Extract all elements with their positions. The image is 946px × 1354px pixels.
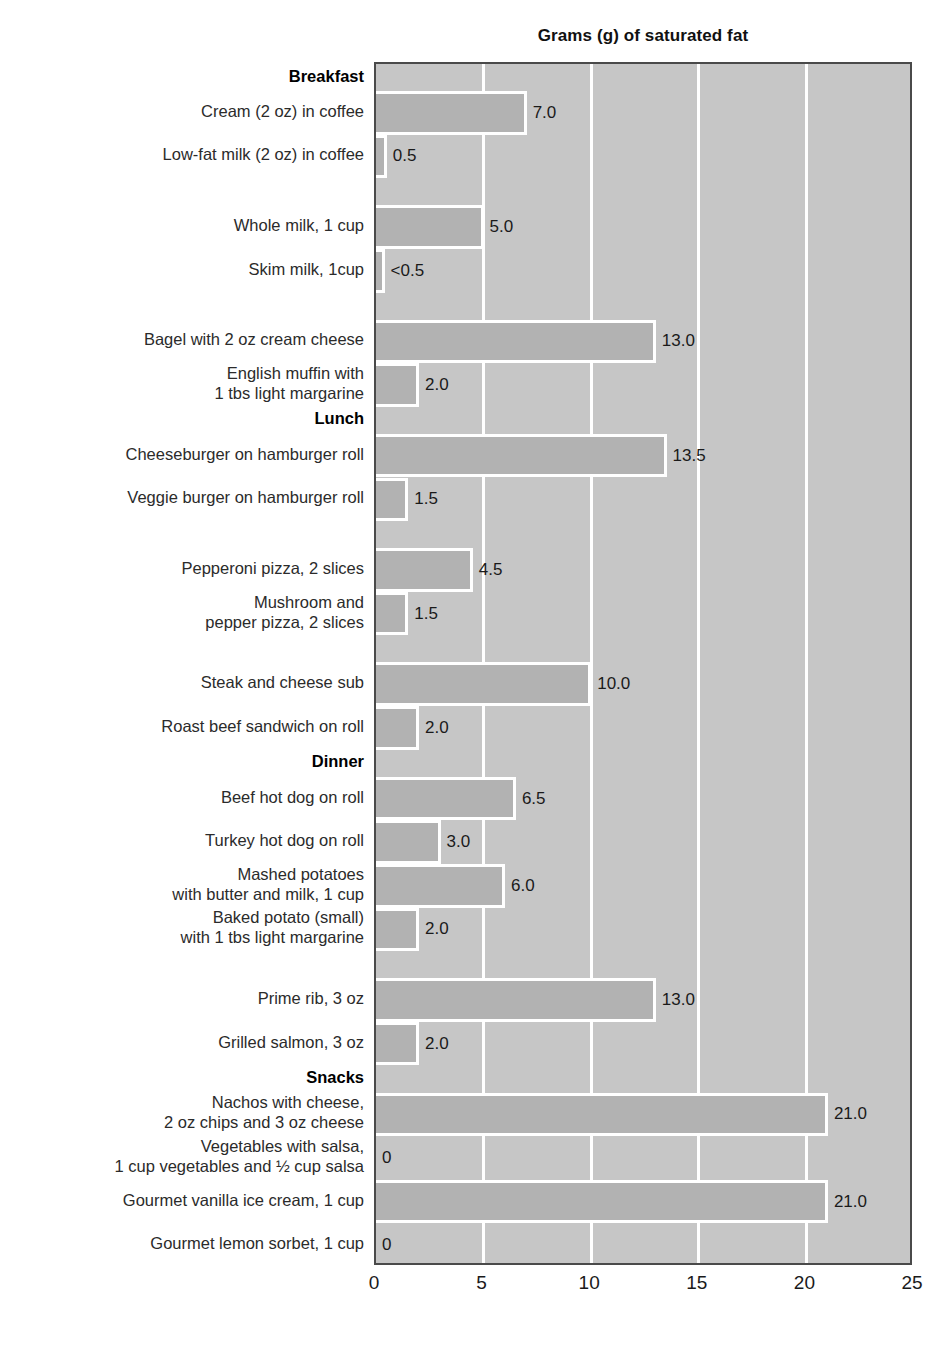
category-label: Gourmet lemon sorbet, 1 cup xyxy=(0,1233,364,1253)
bar-row[interactable]: 2.0 xyxy=(376,363,910,407)
bar[interactable] xyxy=(376,135,387,179)
bar-row[interactable]: 6.5 xyxy=(376,777,910,821)
bar-value-label: 2.0 xyxy=(419,718,449,738)
bar-row[interactable]: 2.0 xyxy=(376,1022,910,1066)
category-label: Nachos with cheese, 2 oz chips and 3 oz … xyxy=(0,1092,364,1132)
category-label: Beef hot dog on roll xyxy=(0,787,364,807)
bar[interactable] xyxy=(376,820,441,864)
bar[interactable] xyxy=(376,1180,828,1224)
bar-value-label: 0 xyxy=(376,1148,391,1168)
category-label: Vegetables with salsa, 1 cup vegetables … xyxy=(0,1136,364,1176)
bar[interactable] xyxy=(376,592,408,636)
bar-row[interactable]: 1.5 xyxy=(376,478,910,522)
bar[interactable] xyxy=(376,91,527,135)
category-label: Turkey hot dog on roll xyxy=(0,830,364,850)
bar-row[interactable]: 13.5 xyxy=(376,434,910,478)
bar[interactable] xyxy=(376,478,408,522)
x-tick-label: 10 xyxy=(579,1272,600,1294)
plot-inner: 7.00.55.0<0.513.02.013.51.54.51.510.02.0… xyxy=(376,64,910,1263)
bar-value-label: 2.0 xyxy=(419,919,449,939)
category-label: Mushroom and pepper pizza, 2 slices xyxy=(0,592,364,632)
bar-value-label: 13.5 xyxy=(667,446,706,466)
category-label: Whole milk, 1 cup xyxy=(0,215,364,235)
category-label: Low-fat milk (2 oz) in coffee xyxy=(0,144,364,164)
bar[interactable] xyxy=(376,548,473,592)
bar-row[interactable]: 13.0 xyxy=(376,978,910,1022)
category-label: Prime rib, 3 oz xyxy=(0,988,364,1008)
category-label: Gourmet vanilla ice cream, 1 cup xyxy=(0,1190,364,1210)
x-tick-label: 25 xyxy=(901,1272,922,1294)
category-label: Bagel with 2 oz cream cheese xyxy=(0,329,364,349)
category-label: Grilled salmon, 3 oz xyxy=(0,1032,364,1052)
category-label: Roast beef sandwich on roll xyxy=(0,716,364,736)
section-label: Lunch xyxy=(0,408,364,428)
plot-area: 7.00.55.0<0.513.02.013.51.54.51.510.02.0… xyxy=(374,62,912,1265)
bar-value-label: 7.0 xyxy=(527,103,557,123)
bar-row[interactable]: 10.0 xyxy=(376,662,910,706)
bar-value-label: 13.0 xyxy=(656,331,695,351)
bar-row[interactable]: 2.0 xyxy=(376,908,910,952)
chart-title: Grams (g) of saturated fat xyxy=(374,26,912,46)
bar[interactable] xyxy=(376,1093,828,1137)
bar-row[interactable]: 4.5 xyxy=(376,548,910,592)
bar-value-label: 3.0 xyxy=(441,832,471,852)
x-axis: 0510152025 xyxy=(374,1272,912,1302)
bar-row[interactable]: 13.0 xyxy=(376,320,910,364)
bar[interactable] xyxy=(376,777,516,821)
x-tick-label: 5 xyxy=(476,1272,487,1294)
bar-row[interactable]: 21.0 xyxy=(376,1093,910,1137)
x-tick-label: 15 xyxy=(686,1272,707,1294)
category-label: Mashed potatoes with butter and milk, 1 … xyxy=(0,864,364,904)
bar[interactable] xyxy=(376,978,656,1022)
bar-value-label: 0 xyxy=(376,1235,391,1255)
bar-value-label: 2.0 xyxy=(419,375,449,395)
bar[interactable] xyxy=(376,662,591,706)
bar-value-label: 0.5 xyxy=(387,146,417,166)
category-label: Steak and cheese sub xyxy=(0,672,364,692)
bar[interactable] xyxy=(376,706,419,750)
bar-row[interactable]: <0.5 xyxy=(376,249,910,293)
bar-value-label: 2.0 xyxy=(419,1034,449,1054)
bar-value-label: 1.5 xyxy=(408,489,438,509)
category-label: English muffin with 1 tbs light margarin… xyxy=(0,363,364,403)
bar-row[interactable]: 2.0 xyxy=(376,706,910,750)
category-label: Veggie burger on hamburger roll xyxy=(0,487,364,507)
category-label: Cheeseburger on hamburger roll xyxy=(0,444,364,464)
bar[interactable] xyxy=(376,363,419,407)
bar-value-label: 5.0 xyxy=(484,217,514,237)
category-label: Baked potato (small) with 1 tbs light ma… xyxy=(0,907,364,947)
bar-row[interactable]: 7.0 xyxy=(376,91,910,135)
bar[interactable] xyxy=(376,908,419,952)
bar-value-label: 4.5 xyxy=(473,560,503,580)
section-label: Dinner xyxy=(0,751,364,771)
bar[interactable] xyxy=(376,434,667,478)
bar-row[interactable]: 0 xyxy=(376,1136,910,1180)
bar-row[interactable]: 3.0 xyxy=(376,820,910,864)
bar-value-label: 10.0 xyxy=(591,674,630,694)
bar[interactable] xyxy=(376,1022,419,1066)
bar-value-label: 13.0 xyxy=(656,990,695,1010)
section-label: Breakfast xyxy=(0,66,364,86)
x-tick-label: 0 xyxy=(369,1272,380,1294)
category-label: Skim milk, 1cup xyxy=(0,259,364,279)
bar-value-label: 1.5 xyxy=(408,604,438,624)
x-tick-label: 20 xyxy=(794,1272,815,1294)
bar-row[interactable]: 1.5 xyxy=(376,592,910,636)
category-label: Pepperoni pizza, 2 slices xyxy=(0,558,364,578)
bar[interactable] xyxy=(376,205,484,249)
bar-value-label: 6.5 xyxy=(516,789,546,809)
bar-value-label: 21.0 xyxy=(828,1192,867,1212)
category-label: Cream (2 oz) in coffee xyxy=(0,101,364,121)
bar-row[interactable]: 0 xyxy=(376,1223,910,1263)
bar-row[interactable]: 0.5 xyxy=(376,135,910,179)
bar-row[interactable]: 6.0 xyxy=(376,864,910,908)
bar[interactable] xyxy=(376,249,385,293)
bar[interactable] xyxy=(376,320,656,364)
bar[interactable] xyxy=(376,864,505,908)
bar-row[interactable]: 21.0 xyxy=(376,1180,910,1224)
bar-row[interactable]: 5.0 xyxy=(376,205,910,249)
section-label: Snacks xyxy=(0,1067,364,1087)
bar-value-label: <0.5 xyxy=(385,261,425,281)
bar-value-label: 6.0 xyxy=(505,876,535,896)
bar-value-label: 21.0 xyxy=(828,1104,867,1124)
